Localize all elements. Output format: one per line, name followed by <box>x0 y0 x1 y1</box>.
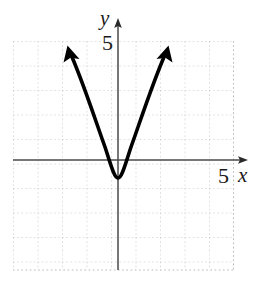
y-tick-label-5: 5 <box>102 30 113 55</box>
graph-figure: y 5 5 x <box>0 0 267 282</box>
coordinate-plane: y 5 5 x <box>0 0 267 282</box>
x-tick-label-5: 5 <box>218 163 229 188</box>
x-axis-label: x <box>237 163 248 187</box>
y-axis-label: y <box>98 6 110 30</box>
grid-lines <box>13 41 234 270</box>
